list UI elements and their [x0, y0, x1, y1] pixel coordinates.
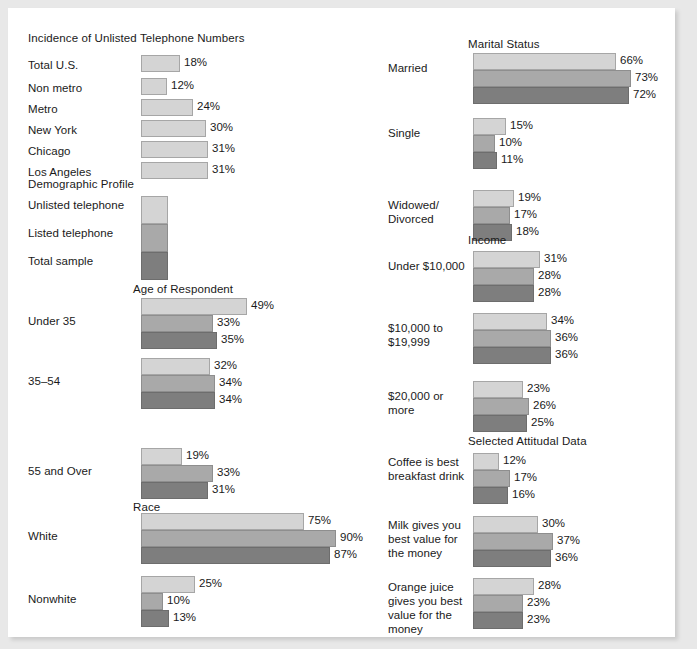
category-label: 35–54: [28, 374, 138, 388]
bar-series-1: [473, 135, 495, 152]
bar-value-label: 16%: [512, 488, 535, 500]
bar-series-2: [141, 332, 217, 349]
bar-series-2: [141, 610, 169, 627]
bar-value-label: 31%: [544, 252, 567, 264]
bar-series-2: [141, 482, 208, 499]
bar-value-label: 28%: [538, 579, 561, 591]
bar-row: 35%: [141, 332, 277, 349]
bar-row: 75%: [141, 513, 364, 530]
bar-series-0: [473, 453, 499, 470]
category-label: Nonwhite: [28, 592, 138, 606]
bar-series-1: [473, 533, 553, 550]
bar-series-0: [141, 576, 195, 593]
bar-series-0: [141, 141, 208, 158]
bar-row: 30%: [141, 120, 266, 137]
bar-value-label: 90%: [340, 531, 363, 543]
bar-row: 10%: [473, 135, 555, 152]
bar-value-label: 34%: [219, 393, 242, 405]
category-label: White: [28, 529, 138, 543]
legend-swatch-1: [141, 224, 168, 252]
bar-row: 23%: [473, 595, 583, 612]
bar-series-0: [141, 513, 304, 530]
bar-row: 34%: [141, 392, 275, 409]
bar-row: 30%: [473, 516, 598, 533]
bar-row: 18%: [141, 55, 240, 72]
bar-series-0: [141, 99, 193, 116]
bar-value-label: 36%: [555, 331, 578, 343]
bar-value-label: 18%: [184, 56, 207, 68]
bar-row: 19%: [473, 190, 574, 207]
bar-value-label: 30%: [542, 517, 565, 529]
bar-row: 28%: [473, 578, 594, 595]
bar-row: 34%: [473, 313, 607, 330]
bar-series-2: [473, 347, 551, 364]
bar-value-label: 12%: [171, 79, 194, 91]
bar-value-label: 73%: [635, 71, 658, 83]
category-label: New York: [28, 123, 138, 137]
category-label: $20,000 or more: [388, 389, 476, 417]
bar-row: 66%: [473, 53, 675, 70]
section-title-attitudal: Selected Attitudal Data: [468, 435, 587, 447]
bar-row: 19%: [141, 448, 242, 465]
bar-series-1: [473, 470, 510, 487]
bar-value-label: 33%: [217, 466, 240, 478]
bar-value-label: 33%: [217, 316, 240, 328]
bar-value-label: 17%: [514, 471, 537, 483]
category-label: Unlisted telephone: [28, 198, 143, 212]
bar-value-label: 31%: [212, 142, 235, 154]
bar-row: 37%: [473, 533, 613, 550]
bar-value-label: 26%: [533, 399, 556, 411]
category-label: Listed telephone: [28, 226, 143, 240]
legend-swatch-0: [141, 196, 168, 224]
bar-series-2: [141, 547, 330, 564]
bar-row: 13%: [141, 610, 229, 627]
bar-series-1: [141, 375, 215, 392]
bar-series-1: [141, 465, 213, 482]
category-label: Los Angeles: [28, 165, 138, 179]
bar-value-label: 19%: [186, 449, 209, 461]
bar-series-2: [473, 415, 527, 432]
bar-series-0: [141, 298, 247, 315]
bar-value-label: 35%: [221, 333, 244, 345]
bar-value-label: 36%: [555, 551, 578, 563]
bar-series-0: [473, 53, 616, 70]
category-label: Total U.S.: [28, 58, 138, 72]
bar-row: 24%: [141, 99, 253, 116]
category-label: Under 35: [28, 314, 138, 328]
category-label: Metro: [28, 102, 138, 116]
bar-row: 49%: [141, 298, 307, 315]
bar-row: 15%: [473, 118, 566, 135]
bar-value-label: 34%: [219, 376, 242, 388]
bar-row: 25%: [473, 415, 587, 432]
bar-row: 31%: [141, 141, 268, 158]
category-label: Orange juice gives you best value for th…: [388, 580, 478, 636]
category-label: 55 and Over: [28, 464, 138, 478]
bar-row: 12%: [473, 453, 559, 470]
category-label: $10,000 to $19,999: [388, 321, 476, 349]
legend-swatch-2: [141, 252, 168, 280]
bar-row: 36%: [473, 347, 611, 364]
bar-value-label: 23%: [527, 382, 550, 394]
bar-series-2: [473, 612, 523, 629]
section-title-marital: Marital Status: [468, 38, 540, 50]
category-label: Widowed/ Divorced: [388, 198, 476, 226]
bar-row: 23%: [473, 381, 583, 398]
bar-value-label: 25%: [199, 577, 222, 589]
bar-series-0: [473, 516, 538, 533]
bar-value-label: 17%: [514, 208, 537, 220]
bar-series-1: [473, 268, 534, 285]
bar-series-0: [473, 118, 506, 135]
section-title-income: Income: [468, 234, 506, 246]
bar-row: 23%: [473, 612, 583, 629]
bar-row: 11%: [473, 152, 557, 169]
bar-series-0: [141, 120, 206, 137]
category-label: Non metro: [28, 81, 138, 95]
bar-value-label: 31%: [212, 483, 235, 495]
bar-value-label: 23%: [527, 596, 550, 608]
category-label: Under $10,000: [388, 259, 476, 273]
bar-value-label: 31%: [212, 163, 235, 175]
bar-value-label: 10%: [167, 594, 190, 606]
bar-row: 17%: [473, 470, 570, 487]
bar-series-0: [141, 55, 180, 72]
bar-value-label: 34%: [551, 314, 574, 326]
